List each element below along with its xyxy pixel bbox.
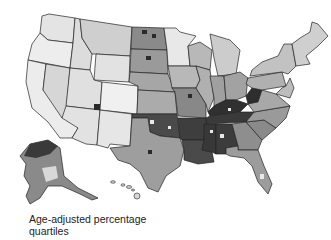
state-hawaii [111,181,140,199]
caption-line-1: Age-adjusted percentage [29,213,146,225]
state-kansas [137,90,177,114]
state-north-dakota [131,27,167,50]
us-county-choropleth-map [0,0,331,240]
state-michigan [210,34,240,76]
state-new-mexico [97,110,132,148]
caption-line-2: quartiles [29,225,146,237]
state-new-england [292,22,328,66]
state-mississippi [202,124,216,154]
state-ohio [224,72,248,100]
state-wyoming [94,54,130,82]
map-caption: Age-adjusted percentage quartiles [29,213,146,237]
state-iowa [168,66,200,88]
state-new-york [250,44,296,76]
state-florida [226,146,272,194]
state-arkansas [178,118,206,140]
state-colorado [100,82,138,114]
state-wisconsin [188,42,212,70]
state-south-dakota [130,49,168,74]
